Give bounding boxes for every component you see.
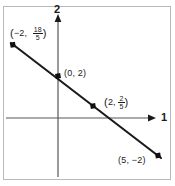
- fraction-numerator: 18: [33, 26, 43, 34]
- fraction: 185: [33, 26, 43, 42]
- fraction: 25: [118, 95, 124, 111]
- point-label-neg2: (−2, 185): [10, 26, 47, 42]
- fraction-denominator: 5: [33, 34, 43, 41]
- data-point-marker: [90, 103, 96, 109]
- paren-close: ): [125, 97, 129, 108]
- point-x-value: −2,: [14, 29, 27, 38]
- data-point-marker: [10, 42, 16, 48]
- x-axis-label: 1: [161, 112, 167, 123]
- fraction-numerator: 2: [118, 95, 124, 103]
- data-point-marker: [55, 73, 61, 79]
- point-label-origin-intercept: (0, 2): [64, 69, 86, 78]
- plotted-line: [11, 43, 161, 158]
- fraction-denominator: 5: [118, 103, 124, 110]
- point-label-two: (2, 25): [104, 95, 128, 111]
- y-axis-label: 2: [54, 4, 60, 15]
- x-axis: [6, 115, 156, 122]
- point-label-five: (5, −2): [118, 156, 146, 165]
- paren-close: ): [43, 28, 47, 39]
- y-axis: [55, 14, 62, 177]
- point-x-value: 2,: [108, 98, 116, 107]
- graph-figure: 2 1 (−2, 185) (0, 2) (2, 25) (5, −2): [0, 0, 175, 186]
- data-point-marker: [155, 152, 161, 158]
